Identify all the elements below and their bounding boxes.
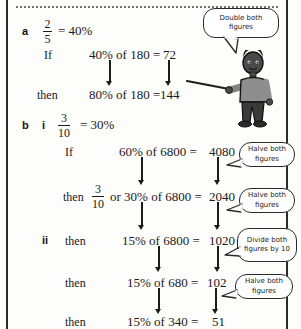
part-a-fraction: 2 5 [43,18,52,45]
arrow-b-ii-result-2 [211,288,220,314]
part-b-i-step-1-word: If [65,146,73,158]
part-a-equals: = 40% [58,24,92,37]
bubble-double-figures: Double both figures [203,8,279,38]
bubble-halve-figures-1-tail [225,156,245,170]
part-a-step-2-expression: 80% of 180 = [89,88,160,101]
arrow-b-ii-expression-1 [154,246,163,272]
bubble-halve-figures-2: Halve both figures [239,188,295,213]
part-b-ii-step-3-result: 51 [212,315,225,328]
part-a-step-1-expression: 40% of 180 = [89,48,160,61]
arrow-b-ii-expression-2 [154,288,163,314]
bubble-halve-figures-3: Halve both figures [235,274,293,299]
part-a-step-2-result: 144 [160,88,180,101]
part-a-fraction-numerator: 2 [45,18,51,31]
part-a-fraction-denominator: 5 [45,32,51,45]
part-b-ii-step-2-word: then [65,277,86,289]
part-a-label: a [22,26,28,37]
page-left-rule [6,0,8,329]
arrow-b-i-expression-1 [137,157,146,185]
part-a-step-2-word: then [37,89,58,101]
arrow-a-result [164,60,173,86]
part-b-ii-step-3-word: then [65,316,86,328]
part-b-i-equals: = 30% [80,118,114,131]
part-b-i-fraction: 3 10 [58,112,70,139]
worked-example-page: a 2 5 = 40% If 40% of 180 = 72 then 80% … [0,0,301,329]
teacher-with-pointer-figure [186,50,286,128]
arrow-b-i-result-1 [213,157,222,185]
part-b-ii-step-1-word: then [65,235,86,247]
part-b-label: b [22,120,29,131]
arrow-b-ii-result-1 [213,246,222,272]
bubble-halve-figures-2-tail [225,201,245,215]
bubble-halve-figures-1: Halve both figures [239,142,295,167]
part-b-ii-roman: ii [42,235,48,246]
part-b-i-step-2-fraction-denominator: 10 [92,197,104,210]
arrow-b-i-result-2 [213,202,222,230]
bubble-divide-figures-by-10-tail [223,245,243,261]
part-b-ii-step-3-expression: 15% of 340 = [127,315,198,328]
arrow-b-i-expression-2 [137,202,146,230]
part-b-i-step-2-expression: or 30% of 6800 = [110,190,202,203]
bubble-divide-figures-by-10: Divide both figures by 10 [237,228,297,262]
part-b-i-fraction-numerator: 3 [61,112,67,125]
part-b-i-step-2-fraction-numerator: 3 [95,183,101,196]
part-b-i-step-2-word: then [63,191,84,203]
part-b-i-roman: i [42,120,45,131]
part-b-i-step-2-fraction: 3 10 [92,183,104,210]
bubble-halve-figures-3-tail [220,287,240,301]
part-b-i-step-1-expression: 60% of 6800 = [119,145,197,158]
arrow-a-expression [105,60,114,86]
part-a-step-1-word: If [44,49,52,61]
part-b-i-fraction-denominator: 10 [58,126,70,139]
